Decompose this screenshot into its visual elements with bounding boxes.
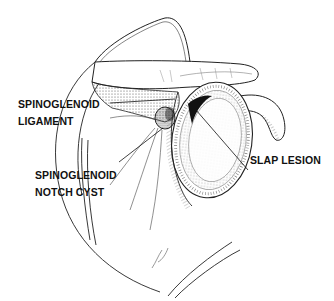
label-line: SPINOGLENOID	[35, 169, 117, 182]
nerve-lines	[110, 116, 162, 230]
label-slap-lesion: SLAP LESION	[250, 154, 321, 167]
label-line: SLAP LESION	[250, 154, 321, 167]
shoulder-anatomy-drawing	[0, 0, 334, 301]
label-line: NOTCH CYST	[35, 186, 117, 199]
label-spinoglenoid-ligament: SPINOGLENOID LIGAMENT	[18, 98, 100, 128]
label-line: LIGAMENT	[18, 115, 100, 128]
label-spinoglenoid-notch-cyst: SPINOGLENOID NOTCH CYST	[35, 169, 117, 199]
illustration-canvas: SPINOGLENOID LIGAMENT SPINOGLENOID NOTCH…	[0, 0, 334, 301]
label-line: SPINOGLENOID	[18, 98, 100, 111]
acromion	[92, 18, 258, 89]
artist-signature	[152, 248, 168, 268]
